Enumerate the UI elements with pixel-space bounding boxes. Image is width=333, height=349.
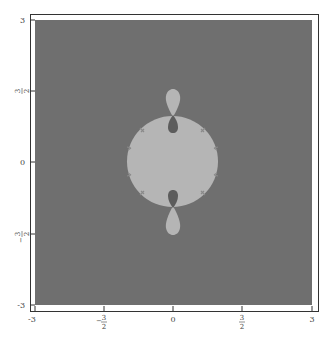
y-tick-label-neg-3-2: − 3 2 bbox=[14, 231, 31, 243]
x-tick-label-neg-3-2: − 3 2 bbox=[96, 314, 107, 331]
y-tick-label-3-2: 3 2 bbox=[14, 88, 31, 94]
y-tick-label: 3 bbox=[20, 16, 25, 25]
x-tick-label: -3 bbox=[28, 315, 36, 324]
svg-text:3: 3 bbox=[14, 89, 22, 93]
svg-text:3: 3 bbox=[240, 314, 244, 322]
y-tick-label: -3 bbox=[17, 301, 25, 310]
svg-text:2: 2 bbox=[23, 89, 31, 93]
y-tick-labels: 3 0 -3 3 2 − 3 2 bbox=[14, 16, 31, 310]
svg-text:−: − bbox=[17, 237, 25, 243]
svg-text:2: 2 bbox=[240, 323, 244, 331]
svg-text:3: 3 bbox=[14, 232, 22, 236]
x-tick-labels: -3 0 3 − 3 2 3 2 bbox=[28, 314, 314, 331]
svg-text:2: 2 bbox=[102, 323, 106, 331]
x-tick-label: 0 bbox=[170, 315, 175, 324]
svg-text:3: 3 bbox=[102, 314, 106, 322]
region-plot: -3 0 3 − 3 2 3 2 3 0 -3 3 2 − bbox=[0, 0, 333, 349]
y-tick-label: 0 bbox=[20, 158, 25, 167]
x-tick-label: 3 bbox=[309, 315, 314, 324]
x-tick-label-3-2: 3 2 bbox=[239, 314, 245, 331]
svg-text:2: 2 bbox=[23, 232, 31, 236]
